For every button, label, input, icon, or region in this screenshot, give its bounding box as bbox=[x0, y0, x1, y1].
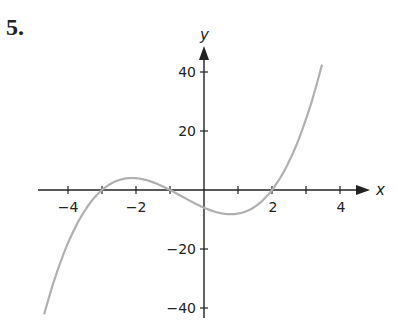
y-tick-label: 40 bbox=[178, 64, 196, 80]
x-tick-label: 2 bbox=[269, 199, 278, 215]
cubic-graph: −4 −2 2 4 40 20 −20 −40 x y bbox=[0, 0, 396, 336]
y-tick-label: 20 bbox=[178, 123, 196, 139]
y-tick-label: −20 bbox=[166, 241, 196, 257]
x-tick-label: −4 bbox=[58, 199, 79, 215]
x-tick-label: −2 bbox=[126, 199, 147, 215]
y-axis-label: y bbox=[199, 26, 210, 44]
y-tick-label: −40 bbox=[166, 300, 196, 316]
x-tick-label: 4 bbox=[337, 199, 346, 215]
y-axis-arrow-icon bbox=[199, 46, 209, 60]
x-axis-arrow-icon bbox=[356, 185, 370, 195]
x-axis-label: x bbox=[375, 181, 385, 199]
